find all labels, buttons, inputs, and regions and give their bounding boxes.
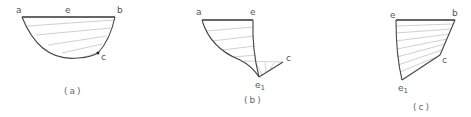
figure-c-edge-c-e1 xyxy=(402,55,440,80)
figure-b-label-e: e xyxy=(250,7,256,17)
figure-a-right-arc xyxy=(98,17,115,53)
figure-b-middle-curve xyxy=(253,20,259,77)
figure-b-caption: (b) xyxy=(244,95,263,105)
diagram-canvas: a e b c (a) a e c e1 (b) xyxy=(0,0,471,117)
figure-b-hatching xyxy=(206,27,283,75)
figure-a-label-e: e xyxy=(65,5,71,15)
figure-a-label-c: c xyxy=(101,52,106,62)
figure-b-label-e1: e1 xyxy=(255,80,265,92)
figure-a: a e b c (a) xyxy=(16,5,123,96)
figure-b-left-curve xyxy=(202,20,259,77)
figure-a-left-arc xyxy=(22,17,98,58)
figure-a-label-a: a xyxy=(16,5,22,15)
figure-a-label-b: b xyxy=(117,5,123,15)
figure-b-label-a: a xyxy=(196,7,202,17)
figure-c-left-edge xyxy=(396,20,402,80)
figure-c: e b c e1 (c) xyxy=(390,8,458,112)
figure-c-label-b: b xyxy=(452,8,458,18)
figure-c-edge-b-c xyxy=(440,20,455,55)
figure-c-label-c: c xyxy=(442,55,447,65)
figure-a-point-c xyxy=(97,52,100,55)
figure-a-caption: (a) xyxy=(64,86,83,96)
figure-c-label-e1: e1 xyxy=(398,83,408,95)
figure-c-caption: (c) xyxy=(413,102,431,112)
figure-b-label-c: c xyxy=(286,53,291,63)
figure-b: a e c e1 (b) xyxy=(196,7,291,105)
figure-c-label-e: e xyxy=(390,10,396,20)
figure-b-edge-e1-c xyxy=(259,62,283,77)
